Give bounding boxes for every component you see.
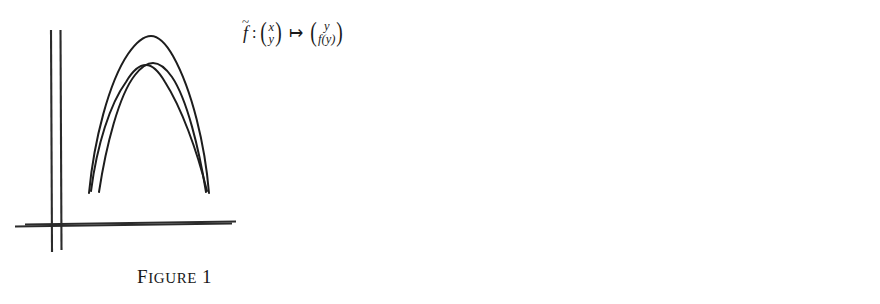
figure-2-horizontal-axis (15, 224, 232, 227)
figure-2-curve-outer-arch (89, 36, 209, 193)
figure-page: ~ f : ( x y ) ↦ ( y f(y) ) Figure1 (0, 0, 880, 304)
figure-2-curve-inner-arch (91, 65, 207, 191)
figure-2-plot (0, 0, 440, 304)
figure-2-panel: F : ( x y ) ↦ ( y εx+f(y) ) Figure2 (440, 0, 880, 304)
figure-2-vertical-axis (51, 30, 52, 252)
